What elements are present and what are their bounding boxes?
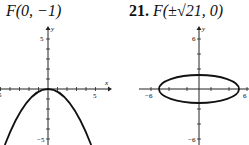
y-max-tick-label: 5 <box>40 35 44 43</box>
ellipse-graph: −6 6 6 −6 y <box>125 0 249 145</box>
y-axis-label: y <box>201 25 206 33</box>
parabola-graph: 5 5 5 −5 x y <box>0 0 125 145</box>
y-min-tick-label: −5 <box>37 136 45 144</box>
x-axis-label: x <box>104 79 109 87</box>
x-max-tick-label: 6 <box>243 92 247 100</box>
x-max-tick-label: 5 <box>93 92 97 100</box>
y-max-tick-label: 6 <box>192 35 196 43</box>
ellipse-panel: 21. F(±√21, 0) −6 6 6 −6 y <box>125 0 249 145</box>
y-axis-label: y <box>50 25 55 33</box>
y-min-tick-label: −6 <box>188 136 196 144</box>
parabola-panel: F(0, −1) <box>0 0 125 145</box>
x-min-tick-label: −6 <box>145 92 153 100</box>
x-min-tick-label: 5 <box>0 91 2 99</box>
